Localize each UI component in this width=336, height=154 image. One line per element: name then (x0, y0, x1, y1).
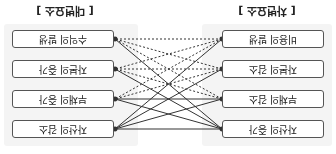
credit-title: [ 대변요소 ] (10, 4, 120, 20)
debit-title: [ 차변요소 ] (212, 4, 322, 20)
credit-item: 자산의 감소 (12, 120, 114, 138)
credit-item: 부채의 증가 (12, 90, 114, 108)
credit-item: 자본의 증가 (12, 60, 114, 78)
debit-item: 자본의 감소 (222, 60, 324, 78)
debit-item: 부채의 감소 (222, 90, 324, 108)
debit-credit-diagram: 자산의 증가 부채의 감소 자본의 감소 비용의 발생 자산의 감소 부채의 증… (0, 0, 336, 154)
debit-item: 자산의 증가 (222, 120, 324, 138)
credit-item: 수익의 발생 (12, 30, 114, 48)
debit-item: 비용의 발생 (222, 30, 324, 48)
